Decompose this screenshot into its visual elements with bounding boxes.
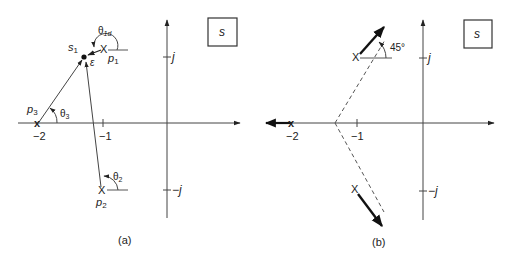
pole-lower-marker: X: [351, 183, 359, 195]
label-neg2: −2: [33, 130, 46, 142]
label-neg1: −1: [99, 130, 112, 142]
s-plane-label: s: [219, 25, 225, 39]
caption-b: (b): [372, 236, 385, 248]
pole-p3-marker: x: [34, 117, 41, 129]
s1-label: s1: [68, 41, 79, 55]
theta3-label: θ3: [60, 108, 70, 120]
panel-b: −2 −1 j −j s x X 45° X (b): [266, 20, 494, 248]
p3-label: p3: [26, 103, 38, 117]
panel-a: −2 −1 j −j s s1 ε X p1 θ1d x p3 θ3 X p2 …: [18, 18, 240, 246]
pole-p1-marker: X: [100, 43, 108, 55]
p1-label: p1: [107, 52, 119, 66]
pole-upper-marker: X: [352, 51, 360, 63]
root-locus-figure: −2 −1 j −j s s1 ε X p1 θ1d x p3 θ3 X p2 …: [0, 0, 508, 260]
locus-branch-lower: [358, 194, 382, 226]
label-negj: −j: [428, 184, 438, 198]
epsilon-label: ε: [90, 57, 95, 68]
angle-45-label: 45°: [390, 42, 405, 53]
label-neg1: −1: [351, 130, 364, 142]
theta1d-label: θ1d: [98, 25, 112, 37]
pole-neg2-marker: x: [288, 117, 295, 129]
s-plane-label: s: [474, 27, 480, 41]
vector-p2-s1: [86, 62, 101, 187]
theta3-arc: [50, 108, 57, 123]
locus-branch-upper: [360, 27, 384, 54]
s1-point: [81, 54, 86, 59]
caption-a: (a): [118, 234, 131, 246]
theta2-label: θ2: [113, 171, 123, 183]
pole-p2-marker: X: [98, 184, 106, 196]
label-negj: −j: [172, 183, 182, 197]
p2-label: p2: [95, 196, 107, 210]
label-neg2: −2: [286, 130, 299, 142]
